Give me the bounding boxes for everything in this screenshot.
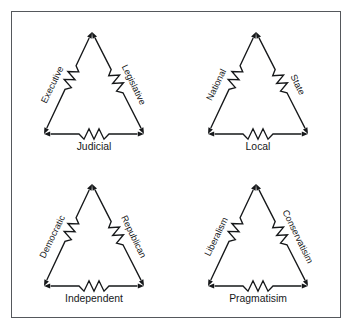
arrowhead-left-apex (87, 32, 92, 39)
triad-federalism: NationalStateLocal (204, 32, 308, 152)
edge-label-right: State (289, 73, 307, 97)
arrowhead-right-apex (256, 32, 261, 39)
edge-bottom-line (215, 129, 302, 139)
edge-label-bottom: Independent (65, 293, 123, 304)
edge-label-bottom: Judicial (77, 141, 112, 152)
arrowhead-left-apex (87, 184, 92, 191)
triad-grid: ExecutiveLegislativeJudicialNationalStat… (12, 12, 340, 317)
edge-label-left: Democratic (38, 213, 68, 260)
triads-canvas: ExecutiveLegislativeJudicialNationalStat… (12, 12, 339, 316)
arrowhead-right-apex (92, 32, 97, 39)
triad-political-parties: DemocraticRepublicanIndependent (38, 184, 149, 304)
triad-separation-of-powers: ExecutiveLegislativeJudicial (39, 32, 148, 152)
edge-label-bottom: Local (246, 141, 271, 152)
figure-frame: ExecutiveLegislativeJudicialNationalStat… (11, 11, 341, 318)
arrowhead-right-apex (256, 184, 261, 191)
edge-label-bottom: Pragmatisim (229, 293, 287, 304)
arrowhead-right-apex (92, 184, 97, 191)
edge-bottom-line (51, 129, 138, 139)
edge-label-left: Executive (39, 65, 65, 105)
edge-bottom-line (51, 281, 138, 291)
edge-label-right: Republican (119, 214, 148, 260)
edge-label-left: Liberalism (203, 215, 230, 257)
edge-bottom-line (215, 281, 302, 291)
edge-label-right: Legislative (120, 63, 148, 106)
arrowhead-left-apex (251, 32, 256, 39)
triad-ideologies: LiberalismConservatisimPragmatisim (203, 184, 315, 304)
arrowhead-left-apex (251, 184, 256, 191)
edge-label-left: National (204, 67, 228, 102)
